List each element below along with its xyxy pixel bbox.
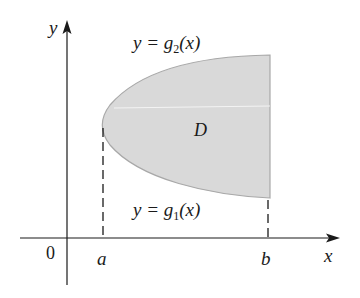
region-d bbox=[103, 55, 271, 198]
a-label: a bbox=[97, 248, 107, 269]
region-label: D bbox=[193, 120, 207, 140]
lower-curve-label: y = g1(x) bbox=[131, 199, 200, 223]
region-diagram: y x 0 a b x D y = g2(x) y = g1(x) bbox=[0, 0, 360, 298]
y-axis-label: y bbox=[47, 17, 58, 38]
x-label: x bbox=[323, 245, 333, 266]
origin-label: 0 bbox=[46, 243, 55, 263]
b-label: b bbox=[261, 248, 271, 269]
upper-curve-label: y = g2(x) bbox=[131, 32, 200, 56]
